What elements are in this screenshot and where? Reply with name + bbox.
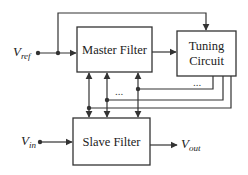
slave-filter-block: Slave Filter [73,118,150,165]
control-line-2-junction [105,98,109,102]
tuning-circuit-label-line2: Circuit [189,54,224,68]
vin-input: Vin [21,133,72,150]
bus-ellipsis-right: ... [193,76,202,88]
control-line-2-horizontal [107,76,223,100]
control-bus: ... ... [87,73,231,117]
vout-output: Vout [150,136,201,153]
bus-ellipsis-left: ... [115,85,124,97]
master-filter-label: Master Filter [82,43,148,57]
control-line-3-horizontal [89,76,231,108]
vref-label: Vref [13,44,32,61]
tuning-circuit-label-line1: Tuning [189,39,225,53]
control-line-3-junction [87,106,91,110]
master-filter-block: Master Filter [77,27,152,72]
control-line-1-junction [136,87,140,91]
vin-label: Vin [21,133,36,150]
control-line-1-horizontal [138,76,213,89]
tuning-circuit-block: Tuning Circuit [177,31,236,76]
master-slave-filter-diagram: Vref Master Filter Tuning Circuit ... [0,0,248,175]
vout-label: Vout [181,136,201,153]
slave-filter-label: Slave Filter [83,135,142,149]
vref-input: Vref [13,44,76,61]
